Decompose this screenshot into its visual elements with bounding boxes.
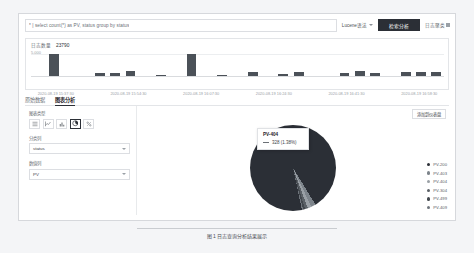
legend-item[interactable]: PV-200 — [427, 162, 447, 167]
tooltip-value: 328 (1.38%) — [272, 140, 297, 145]
syntax-select-label: Lucene语法 — [342, 22, 367, 28]
percent-icon[interactable] — [83, 119, 94, 129]
figure-caption: 图 1 日志查询分析结果展示 — [0, 232, 474, 239]
histogram-bar — [49, 54, 59, 76]
legend-label: PV-403 — [433, 171, 447, 176]
legend-color-dot — [427, 206, 430, 209]
syntax-select[interactable]: Lucene语法 — [342, 19, 373, 31]
legend-item[interactable]: PV-403 — [427, 171, 447, 176]
histogram-plot[interactable]: 5,000 2020-08-19 15:37:302020-08-19 15:5… — [31, 51, 444, 77]
value-column-label: 数值列 — [29, 160, 130, 166]
legend-label: PV-304 — [433, 188, 447, 193]
legend-label: PV-499 — [433, 196, 447, 201]
log-count-label: 日志数量 — [31, 42, 51, 48]
legend-color-dot — [427, 163, 430, 166]
search-row: * | select count(*) as PV, status group … — [19, 14, 455, 36]
histogram-bar — [187, 54, 197, 76]
histogram-bars — [31, 51, 444, 76]
search-query-text: * | select count(*) as PV, status group … — [29, 23, 129, 28]
add-to-dashboard-button[interactable]: 添加到仪表盘 — [412, 109, 446, 119]
result-tabs: 原始数据 图表分析 — [25, 93, 449, 106]
legend-color-dot — [427, 189, 430, 192]
caption-text: 图 1 日志查询分析结果展示 — [207, 233, 268, 239]
log-cluster-link[interactable]: 日志聚类 — [425, 22, 450, 28]
chevron-down-icon — [122, 173, 126, 175]
histogram-axis — [31, 76, 444, 77]
chart-preview-pane: 添加到仪表盘 PV-404 328 (1.38%) PV-200PV-403PV… — [137, 106, 449, 215]
tab-chart-analysis[interactable]: 图表分析 — [55, 96, 75, 105]
category-column-label: 分类列 — [29, 135, 130, 141]
tooltip-title: PV-404 — [263, 132, 303, 137]
log-cluster-label: 日志聚类 — [425, 22, 445, 28]
chart-type-toolbar — [29, 119, 130, 129]
value-column-select[interactable]: PV — [29, 169, 130, 180]
chevron-down-icon — [122, 148, 126, 150]
legend-label: PV-404 — [433, 179, 447, 184]
chart-config-pane: 图表类型 — [25, 106, 137, 215]
legend-item[interactable]: PV-404 — [427, 179, 447, 184]
log-analysis-card: * | select count(*) as PV, status group … — [18, 13, 456, 221]
caption-rule — [137, 228, 337, 229]
legend-label: PV-200 — [433, 162, 447, 167]
legend-label: PV-409 — [433, 205, 447, 210]
histogram-panel: 日志数量 23790 5,000 2020-08-19 15:37:302020… — [25, 38, 449, 90]
pie-chart-area[interactable]: PV-404 328 (1.38%) PV-200PV-403PV-404PV-… — [137, 120, 449, 215]
search-input[interactable]: * | select count(*) as PV, status group … — [25, 19, 337, 32]
legend-item[interactable]: PV-499 — [427, 196, 447, 201]
search-button-label: 检索分析 — [389, 22, 409, 29]
analysis-body: 图表类型 — [25, 106, 449, 215]
table-icon[interactable] — [29, 119, 40, 129]
legend-color-dot — [427, 171, 430, 174]
category-column-value: status — [33, 146, 45, 151]
search-button[interactable]: 检索分析 — [378, 19, 420, 32]
chart-legend: PV-200PV-403PV-404PV-304PV-499PV-409 — [427, 162, 447, 214]
tooltip-row: 328 (1.38%) — [263, 140, 303, 145]
legend-color-dot — [427, 180, 430, 183]
new-badge-icon — [446, 23, 450, 27]
legend-color-dot — [427, 197, 430, 200]
tab-raw-data[interactable]: 原始数据 — [25, 96, 45, 105]
line-chart-icon[interactable] — [43, 119, 54, 129]
app-background: * | select count(*) as PV, status group … — [0, 0, 474, 253]
legend-item[interactable]: PV-304 — [427, 188, 447, 193]
bar-chart-icon[interactable] — [56, 119, 67, 129]
tooltip-series-marker — [263, 142, 269, 143]
histogram-header: 日志数量 23790 — [31, 42, 69, 48]
chart-type-label: 图表类型 — [29, 110, 130, 116]
add-to-dashboard-label: 添加到仪表盘 — [417, 111, 441, 117]
chevron-down-icon — [369, 24, 373, 26]
legend-item[interactable]: PV-409 — [427, 205, 447, 210]
chart-tooltip: PV-404 328 (1.38%) — [257, 128, 309, 150]
category-column-select[interactable]: status — [29, 143, 130, 154]
log-count-value: 23790 — [56, 43, 69, 48]
value-column-value: PV — [33, 172, 39, 177]
pie-chart-icon[interactable] — [70, 119, 81, 129]
